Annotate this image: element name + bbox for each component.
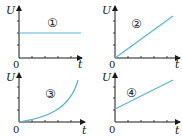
origin-label: 0 xyxy=(13,124,19,135)
linear-intercept-line xyxy=(115,80,173,109)
origin-label: 0 xyxy=(109,59,115,70)
four-graphs-diagram: U t 0 ① U t 0 ② U t 0 ③ xyxy=(0,0,182,137)
y-axis-label: U xyxy=(102,71,112,84)
linear-line xyxy=(115,16,173,58)
x-axis-label: t xyxy=(175,58,180,71)
graph-number-label: ① xyxy=(47,16,58,30)
graph-number-label: ③ xyxy=(45,87,56,101)
y-axis-label: U xyxy=(6,4,16,17)
x-axis-label: t xyxy=(175,124,180,137)
x-axis-label: t xyxy=(82,124,87,137)
origin-label: 0 xyxy=(109,124,115,135)
graph-panel-3: U t 0 ③ xyxy=(6,71,87,137)
y-axis-label: U xyxy=(102,4,112,17)
graph-number-label: ④ xyxy=(126,86,137,100)
ticks xyxy=(113,87,167,122)
graph-panel-1: U t 0 ① xyxy=(6,4,83,71)
y-axis-label: U xyxy=(6,71,16,84)
graph-number-label: ② xyxy=(131,17,142,31)
graph-panel-4: U t 0 ④ xyxy=(102,71,180,137)
x-axis-label: t xyxy=(78,58,83,71)
ticks xyxy=(17,21,71,58)
origin-label: 0 xyxy=(13,59,19,70)
graph-panel-2: U t 0 ② xyxy=(102,4,180,71)
